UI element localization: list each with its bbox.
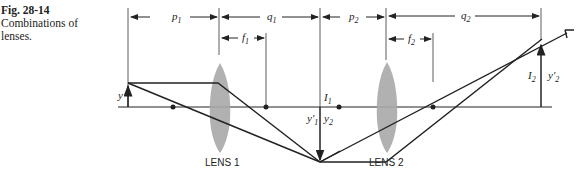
svg-text:y′1: y′1 <box>306 112 318 127</box>
ray-central-2 <box>320 33 567 162</box>
svg-text:y′2: y′2 <box>547 69 559 84</box>
svg-text:y2: y2 <box>323 112 333 127</box>
svg-text:q1: q1 <box>267 10 277 25</box>
lens1-label: LENS 1 <box>205 157 240 168</box>
dimension-p2: p2 <box>323 10 384 25</box>
focal-point-1-left <box>171 105 176 110</box>
lens2-label: LENS 2 <box>369 157 404 168</box>
dimension-q1: q1 <box>222 10 318 25</box>
svg-text:f1: f1 <box>242 31 249 46</box>
focal-point-2-right <box>431 105 436 110</box>
svg-text:p2: p2 <box>348 10 359 25</box>
lens-2 <box>377 62 397 153</box>
svg-text:f2: f2 <box>408 32 415 47</box>
focal-point-2-left <box>337 105 342 110</box>
dimension-f1: f1 <box>222 31 264 46</box>
lens-1 <box>210 63 230 153</box>
svg-text:p1: p1 <box>171 10 182 25</box>
svg-text:q2: q2 <box>461 9 471 24</box>
svg-text:I2: I2 <box>527 69 536 84</box>
object-label: y <box>117 89 123 101</box>
svg-text:I1: I1 <box>323 91 332 106</box>
lens-diagram: p1 q1 p2 q2 f1 f2 y I1 y′1 y2 I <box>0 0 584 179</box>
ray-parallel-2 <box>320 39 542 162</box>
ray-end-arrow <box>565 30 574 38</box>
dimension-f2: f2 <box>389 32 431 47</box>
dimension-q2: q2 <box>389 9 539 24</box>
focal-point-1-right <box>264 105 269 110</box>
dimension-p1: p1 <box>131 10 217 25</box>
